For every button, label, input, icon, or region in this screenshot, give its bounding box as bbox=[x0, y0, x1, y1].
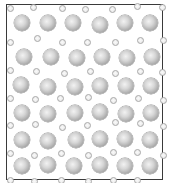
small-sphere bbox=[57, 95, 64, 102]
small-sphere bbox=[34, 35, 41, 42]
large-sphere bbox=[40, 133, 56, 149]
large-sphere bbox=[119, 50, 135, 66]
large-sphere bbox=[92, 131, 108, 147]
small-sphere bbox=[7, 67, 14, 74]
small-sphere bbox=[134, 177, 141, 184]
small-sphere bbox=[159, 69, 166, 76]
large-sphere bbox=[92, 104, 108, 120]
large-sphere bbox=[69, 50, 85, 66]
small-sphere bbox=[59, 124, 66, 131]
small-sphere bbox=[87, 68, 94, 75]
large-sphere bbox=[65, 15, 81, 31]
large-sphere bbox=[142, 132, 158, 148]
large-sphere bbox=[14, 105, 30, 121]
large-sphere bbox=[118, 78, 134, 94]
large-sphere bbox=[16, 49, 32, 65]
large-sphere bbox=[40, 79, 56, 95]
small-sphere bbox=[58, 150, 65, 157]
small-sphere bbox=[112, 70, 119, 77]
small-sphere bbox=[32, 121, 39, 128]
large-sphere bbox=[142, 15, 158, 31]
large-sphere bbox=[40, 106, 56, 122]
small-sphere bbox=[137, 68, 144, 75]
large-sphere bbox=[94, 49, 110, 65]
small-sphere bbox=[134, 149, 141, 156]
large-sphere bbox=[13, 77, 29, 93]
large-sphere bbox=[92, 157, 108, 173]
small-sphere bbox=[85, 178, 92, 184]
small-sphere bbox=[7, 39, 14, 46]
small-sphere bbox=[137, 37, 144, 44]
small-sphere bbox=[135, 95, 142, 102]
small-sphere bbox=[31, 178, 38, 184]
small-sphere bbox=[160, 97, 167, 104]
large-sphere bbox=[40, 15, 56, 31]
large-sphere bbox=[67, 105, 83, 121]
small-sphere bbox=[112, 119, 119, 126]
small-sphere bbox=[85, 152, 92, 159]
small-sphere bbox=[134, 3, 141, 10]
large-sphere bbox=[92, 17, 108, 33]
small-sphere bbox=[32, 96, 39, 103]
large-sphere bbox=[43, 49, 59, 65]
sphere-lattice bbox=[0, 0, 169, 183]
small-sphere bbox=[7, 177, 14, 184]
small-sphere bbox=[160, 37, 167, 44]
small-sphere bbox=[84, 122, 91, 129]
large-sphere bbox=[67, 79, 83, 95]
small-sphere bbox=[7, 5, 14, 12]
large-sphere bbox=[143, 105, 159, 121]
small-sphere bbox=[160, 123, 167, 130]
small-sphere bbox=[84, 39, 91, 46]
small-sphere bbox=[85, 94, 92, 101]
large-sphere bbox=[14, 132, 30, 148]
small-sphere bbox=[7, 150, 14, 157]
large-sphere bbox=[40, 157, 56, 173]
small-sphere bbox=[59, 39, 66, 46]
small-sphere bbox=[110, 97, 117, 104]
large-sphere bbox=[117, 131, 133, 147]
large-sphere bbox=[117, 158, 133, 174]
large-sphere bbox=[66, 158, 82, 174]
large-sphere bbox=[144, 49, 160, 65]
small-sphere bbox=[110, 177, 117, 184]
small-sphere bbox=[31, 152, 38, 159]
small-sphere bbox=[7, 122, 14, 129]
large-sphere bbox=[118, 106, 134, 122]
small-sphere bbox=[109, 6, 116, 13]
small-sphere bbox=[7, 95, 14, 102]
small-sphere bbox=[61, 70, 68, 77]
small-sphere bbox=[33, 68, 40, 75]
large-sphere bbox=[14, 15, 30, 31]
small-sphere bbox=[30, 4, 37, 11]
small-sphere bbox=[160, 152, 167, 159]
large-sphere bbox=[142, 158, 158, 174]
small-sphere bbox=[159, 4, 166, 11]
small-sphere bbox=[110, 149, 117, 156]
small-sphere bbox=[58, 177, 65, 184]
large-sphere bbox=[68, 132, 84, 148]
large-sphere bbox=[143, 78, 159, 94]
large-sphere bbox=[92, 78, 108, 94]
small-sphere bbox=[59, 5, 66, 12]
small-sphere bbox=[82, 6, 89, 13]
large-sphere bbox=[14, 158, 30, 174]
small-sphere bbox=[112, 39, 119, 46]
small-sphere bbox=[137, 120, 144, 127]
large-sphere bbox=[117, 15, 133, 31]
